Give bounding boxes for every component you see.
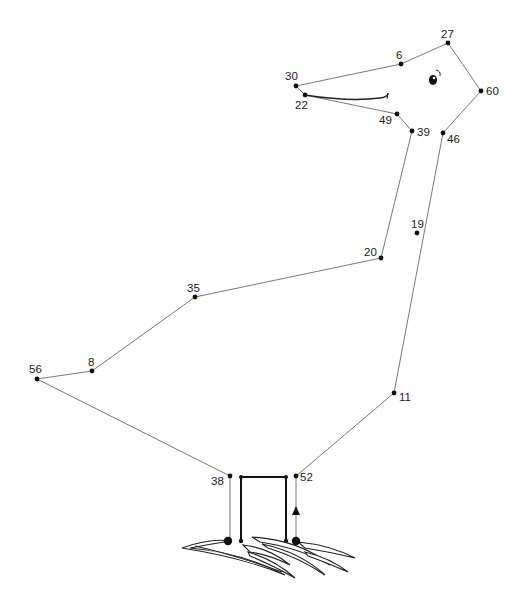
- dot-marker: [294, 474, 299, 479]
- dot-number-label: 22: [295, 99, 308, 111]
- dot-52: 52: [294, 471, 313, 483]
- dot-number-label: 39: [417, 126, 430, 138]
- dot-number-label: 38: [211, 475, 224, 487]
- dot-marker: [90, 369, 95, 374]
- dot-60: 60: [479, 85, 499, 97]
- dot-8: 8: [88, 356, 94, 373]
- dot-20: 20: [364, 246, 383, 260]
- dot-39: 39: [410, 126, 430, 138]
- eye-icon: [429, 70, 440, 85]
- foot-dot-left: [224, 537, 232, 545]
- dot-number-label: 20: [364, 246, 377, 258]
- dot-46: 46: [441, 131, 460, 145]
- beak-mouth-line: [305, 93, 388, 99]
- dot-marker: [193, 295, 198, 300]
- start-arrow-icon: [292, 506, 300, 515]
- dot-marker: [415, 231, 420, 236]
- dot-marker: [399, 62, 404, 67]
- dot-30: 30: [285, 70, 298, 88]
- dot-number-label: 8: [88, 356, 94, 368]
- dot-6: 6: [396, 49, 403, 66]
- dot-number-label: 11: [399, 391, 411, 403]
- dot-marker: [379, 256, 384, 261]
- grass: [182, 537, 355, 578]
- foot-dot-right: [292, 537, 300, 545]
- dot-marker: [294, 84, 299, 89]
- dot-27: 27: [441, 28, 454, 45]
- dot-number-label: 27: [441, 28, 454, 40]
- dot-number-label: 19: [411, 218, 424, 230]
- dot-number-label: 30: [285, 70, 298, 82]
- dot-marker: [303, 93, 308, 98]
- connecting-lines: [37, 43, 481, 541]
- dot-22: 22: [295, 93, 308, 111]
- dot-number-label: 52: [300, 471, 313, 483]
- legs: [239, 475, 288, 543]
- dot-marker: [392, 391, 397, 396]
- dot-number-label: 56: [29, 363, 42, 375]
- dot-marker: [410, 129, 415, 134]
- dot-number-label: 6: [396, 49, 402, 61]
- dot-to-dot-canvas: 276302260493946192035856113852: [0, 0, 526, 606]
- dot-number-label: 49: [379, 114, 392, 126]
- numbered-dots: 276302260493946192035856113852: [29, 28, 499, 487]
- dot-19: 19: [411, 218, 424, 235]
- dot-marker: [441, 131, 446, 136]
- dot-number-label: 35: [187, 282, 200, 294]
- dot-49: 49: [379, 112, 399, 126]
- dot-marker: [228, 474, 233, 479]
- dot-11: 11: [392, 391, 411, 403]
- dot-number-label: 60: [486, 85, 499, 97]
- dot-marker: [446, 41, 451, 46]
- dot-38: 38: [211, 474, 232, 487]
- dot-number-label: 46: [447, 133, 460, 145]
- dot-marker: [479, 89, 484, 94]
- dot-marker: [395, 112, 400, 117]
- dot-marker: [35, 377, 40, 382]
